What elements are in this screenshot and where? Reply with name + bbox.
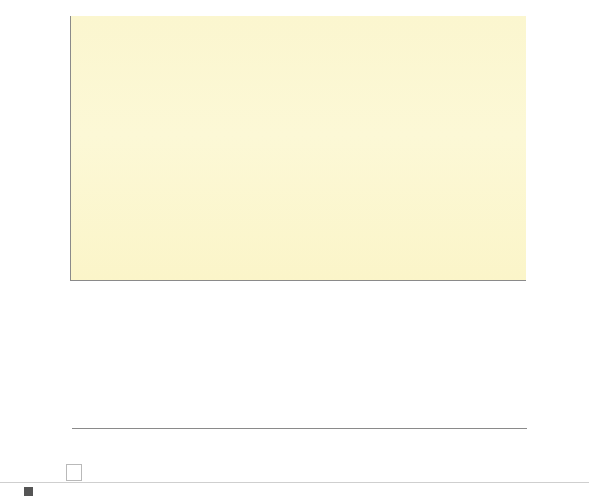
decadal-average-chart <box>0 300 589 496</box>
bottom-chart-plot-area <box>72 310 527 429</box>
top-chart-bars <box>71 16 526 280</box>
top-chart-plot-area <box>70 16 526 281</box>
annual-disaster-count-chart <box>0 0 589 300</box>
square-marker <box>24 487 33 496</box>
figure-caption <box>24 487 38 496</box>
legend <box>66 464 82 481</box>
top-chart-y-axis <box>0 0 70 280</box>
bottom-chart-x-axis <box>72 430 527 446</box>
divider <box>0 482 589 483</box>
bottom-chart-y-axis <box>0 300 72 430</box>
